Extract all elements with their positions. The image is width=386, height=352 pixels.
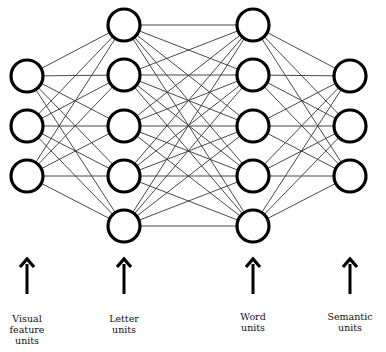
letter-unit-5 xyxy=(108,210,140,242)
label-line: Letter xyxy=(89,313,159,324)
label-line: units xyxy=(218,322,288,333)
letter-unit-2 xyxy=(108,59,140,91)
letter-unit-4 xyxy=(108,160,140,192)
connection-visual-feature-to-letter xyxy=(27,25,124,176)
semantic-unit-1 xyxy=(334,60,366,92)
input-arrows xyxy=(20,259,357,294)
connection-word-to-semantic xyxy=(253,76,350,226)
semantic-unit-2 xyxy=(334,110,366,142)
word-unit-5 xyxy=(237,210,269,242)
label-line: feature xyxy=(0,324,62,335)
letter-unit-3 xyxy=(108,110,140,142)
connections xyxy=(27,25,350,226)
label-semantic-units: Semantic units xyxy=(315,311,385,333)
label-line: units xyxy=(89,324,159,335)
label-letter-units: Letter units xyxy=(89,313,159,335)
label-word-units: Word units xyxy=(218,311,288,333)
up-arrow-icon xyxy=(117,259,131,294)
word-unit-3 xyxy=(237,110,269,142)
up-arrow-icon xyxy=(20,259,34,294)
up-arrow-icon xyxy=(246,259,260,294)
visual-feature-unit-2 xyxy=(11,110,43,142)
word-unit-4 xyxy=(237,160,269,192)
letter-unit-1 xyxy=(108,9,140,41)
label-line: Word xyxy=(218,311,288,322)
label-visual-feature-units: Visual feature units xyxy=(0,313,62,346)
word-unit-2 xyxy=(237,59,269,91)
label-line: units xyxy=(0,335,62,346)
visual-feature-unit-3 xyxy=(11,160,43,192)
label-line: Visual xyxy=(0,313,62,324)
word-unit-1 xyxy=(237,9,269,41)
neural-network-diagram: Visual feature units Letter units Word u… xyxy=(0,0,386,352)
semantic-unit-3 xyxy=(334,160,366,192)
network-canvas xyxy=(0,0,386,352)
visual-feature-unit-1 xyxy=(11,60,43,92)
label-line: Semantic xyxy=(315,311,385,322)
up-arrow-icon xyxy=(343,259,357,294)
label-line: units xyxy=(315,322,385,333)
